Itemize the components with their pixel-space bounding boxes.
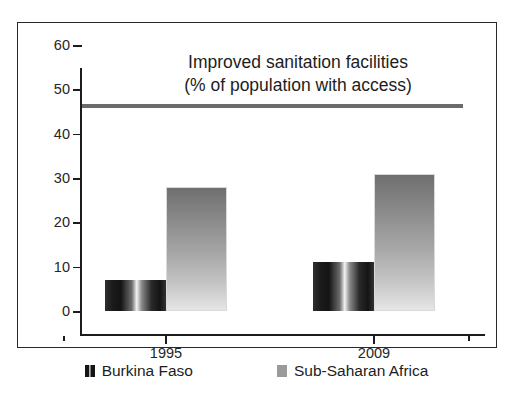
reference-line-annotation [80,104,463,108]
chart-legend: Burkina FasoSub-Saharan Africa [0,362,513,380]
x-axis-tick [373,336,375,344]
y-axis-tick [73,89,82,91]
chart-subtitle: (% of population with access) [98,74,498,97]
chart-title: Improved sanitation facilities [98,51,498,74]
y-axis-tick-label-text: 30 [36,171,70,186]
y-axis-tick-label-text: 50 [36,82,70,97]
x-axis-end-tick [468,336,470,341]
y-axis-tick-label-text: 40 [36,127,70,142]
x-axis-tick-label: 1995 [121,345,211,361]
y-axis-tick-label-text: 0 [36,304,70,319]
legend-swatch-icon [85,365,95,377]
x-axis-tick-label: 2009 [329,345,419,361]
chart-frame: Improved sanitation facilities (% of pop… [17,22,497,348]
y-axis-tick [73,311,82,313]
bar-burkina-faso-1995 [105,280,166,311]
y-axis-tick-label: 10 [32,260,70,274]
x-axis-line [80,334,485,336]
y-axis-tick-label-text: 60 [36,38,70,53]
y-axis-tick-label: 40 [32,127,70,141]
legend-item-burkina-faso[interactable]: Burkina Faso [85,362,193,380]
y-axis-tick [73,134,82,136]
clipped-header-text [0,0,513,6]
legend-label: Burkina Faso [102,362,193,380]
y-axis-tick-label: 30 [32,171,70,185]
bar-sub-saharan-africa-2009 [374,174,435,311]
bar-burkina-faso-2009 [313,262,374,311]
chart-title-block: Improved sanitation facilities (% of pop… [98,51,498,97]
x-axis-end-tick [63,336,65,341]
y-axis-tick-label-text: 10 [36,260,70,275]
y-axis-tick-label: 50 [32,82,70,96]
y-axis-tick-label: 60 [32,38,70,52]
y-axis-tick-label: 20 [32,215,70,229]
y-axis-tick [73,45,82,47]
bar-sub-saharan-africa-1995 [166,187,227,311]
y-axis-line [80,68,82,336]
y-axis-tick [73,178,82,180]
legend-item-sub-saharan-africa[interactable]: Sub-Saharan Africa [277,362,428,380]
y-axis-tick [73,267,82,269]
y-axis-tick [73,222,82,224]
y-axis-tick-label-text: 20 [36,215,70,230]
x-axis-tick [165,336,167,344]
legend-label: Sub-Saharan Africa [294,362,428,380]
legend-swatch-icon [277,365,287,377]
y-axis-tick-label: 0 [32,304,70,318]
